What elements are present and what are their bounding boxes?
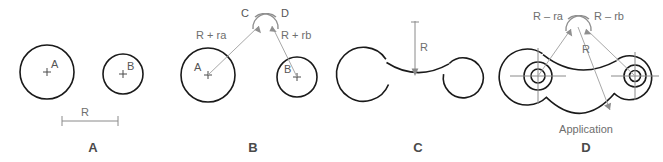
circle-b-label: B — [284, 63, 291, 75]
arc-label-r-plus-ra: R + ra — [196, 29, 227, 41]
intersection-label-d: D — [281, 7, 289, 19]
panel-caption-b: B — [248, 140, 257, 155]
radius-label-r: R — [582, 43, 590, 55]
technical-drawing-figure: A B R A A B C D R + ra — [0, 0, 663, 162]
circle-a-label: A — [194, 61, 202, 73]
arc-label-r-minus-ra: R – ra — [533, 10, 564, 22]
intersection-label-c: C — [241, 7, 249, 19]
arc-label-r-minus-rb: R – rb — [594, 10, 624, 22]
dimension-label-r: R — [81, 106, 89, 118]
circle-a-label: A — [51, 58, 59, 70]
arc-label-r-plus-rb: R + rb — [281, 29, 311, 41]
radius-label-r: R — [420, 41, 428, 53]
circle-b-label: B — [127, 60, 134, 72]
panel-caption-a: A — [88, 140, 98, 155]
panel-caption-c: C — [413, 140, 423, 155]
panel-caption-d: D — [581, 140, 590, 155]
application-label: Application — [559, 123, 613, 135]
figure-background — [0, 0, 663, 162]
